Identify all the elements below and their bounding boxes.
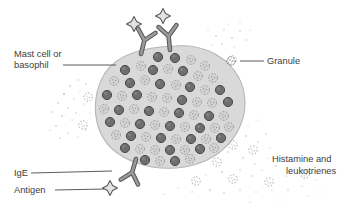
label-ige: IgE — [14, 168, 28, 178]
mast-cell-degranulation-diagram: Mast cell or basophil Granule IgE Antige… — [0, 0, 352, 209]
label-mast-cell-line1: Mast cell or — [14, 49, 62, 59]
label-mediators-line1: Histamine and — [272, 154, 331, 164]
label-mediators-line2: leukotrienes — [286, 166, 336, 176]
label-granule: Granule — [267, 56, 300, 66]
label-mast-cell-line2: basophil — [14, 60, 49, 70]
label-antigen: Antigen — [14, 185, 46, 195]
